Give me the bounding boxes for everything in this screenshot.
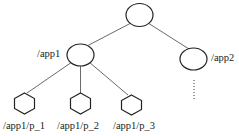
app2-label: /app2 <box>211 52 234 63</box>
edge-app1-p3 <box>89 62 128 95</box>
app1-node <box>67 44 94 66</box>
tree-diagram: /app1 /app2 /app1/p_1 /app1/p_2 /app1/p_… <box>0 0 239 136</box>
p1-label: /app1/p_1 <box>3 120 45 131</box>
p3-node <box>122 95 142 115</box>
root-node <box>126 4 153 27</box>
edge-root-app1 <box>87 23 131 46</box>
app1-label: /app1 <box>37 48 60 59</box>
edge-app1-p1 <box>27 62 72 93</box>
p1-node <box>15 93 35 114</box>
app2-node <box>180 48 207 70</box>
edge-root-app2 <box>148 23 189 49</box>
p3-label: /app1/p_3 <box>113 120 155 131</box>
p2-label: /app1/p_2 <box>57 120 99 131</box>
p2-node <box>71 93 91 114</box>
